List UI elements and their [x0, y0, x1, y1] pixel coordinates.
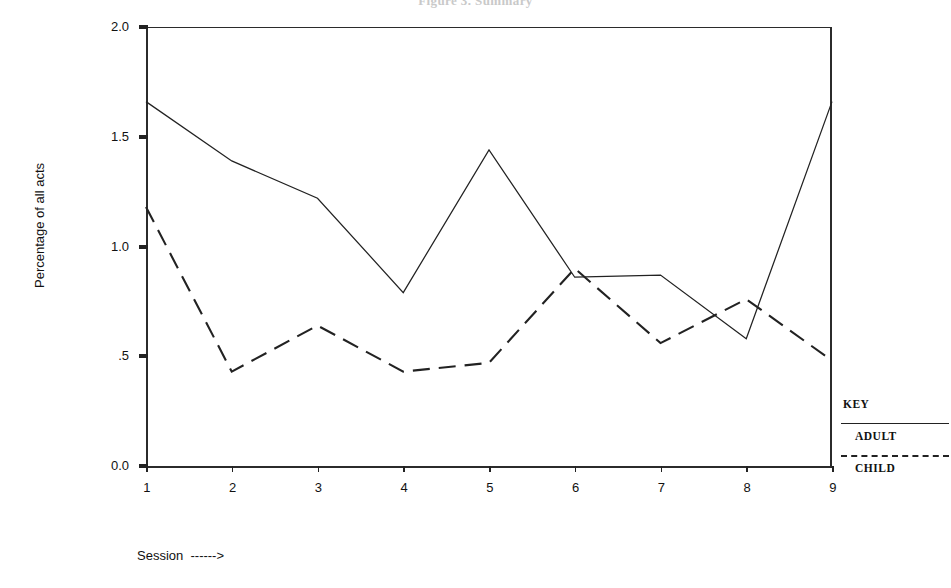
series-line-adult [146, 102, 832, 339]
x-tick: 5 [489, 466, 491, 472]
series-lines [146, 27, 832, 466]
y-tick-label: 0.0 [111, 464, 129, 468]
legend-swatch-dashed [841, 451, 947, 461]
y-tick-label: .5 [118, 354, 129, 358]
legend-line [841, 455, 949, 457]
y-axis-title: Percentage of all acts [32, 111, 47, 341]
x-tick-label: 4 [400, 480, 407, 495]
series-line-child [146, 207, 832, 372]
x-tick: 1 [146, 466, 148, 472]
x-axis-title: Session ------> [137, 548, 224, 563]
y-tick-label: 1.0 [111, 245, 129, 249]
x-tick-label: 5 [486, 480, 493, 495]
x-tick: 6 [575, 466, 577, 472]
legend-title: KEY [843, 398, 951, 410]
legend-swatch-solid [841, 419, 947, 429]
x-tick-label: 9 [829, 480, 836, 495]
x-tick: 7 [661, 466, 663, 472]
legend-entry-child: CHILD [833, 451, 951, 474]
x-tick-label: 3 [315, 480, 322, 495]
y-tick-label: 1.5 [111, 135, 129, 139]
legend-line [841, 423, 949, 424]
x-tick-label: 2 [229, 480, 236, 495]
legend-label: CHILD [855, 462, 951, 474]
legend-entry-adult: ADULT [833, 419, 951, 442]
x-tick-label: 8 [743, 480, 750, 495]
y-tick-label: 2.0 [111, 25, 129, 29]
x-tick-label: 7 [658, 480, 665, 495]
legend-entries: ADULTCHILD [833, 419, 951, 474]
x-tick: 4 [403, 466, 405, 472]
legend: KEY ADULTCHILD [833, 398, 951, 474]
legend-label: ADULT [855, 430, 951, 442]
plot-area: 2.01.51.0.50.0 123456789 [146, 27, 832, 466]
x-tick: 3 [318, 466, 320, 472]
x-tick-label: 6 [572, 480, 579, 495]
figure-root: Figure 3. Summary Percentage of all acts… [0, 0, 951, 588]
clipped-figure-title: Figure 3. Summary [0, 0, 951, 9]
x-tick: 8 [746, 466, 748, 472]
x-tick-label: 1 [143, 480, 150, 495]
x-tick: 2 [232, 466, 234, 472]
